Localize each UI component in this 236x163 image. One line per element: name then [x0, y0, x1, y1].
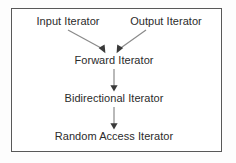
- node-random-access-iterator: Random Access Iterator: [55, 130, 174, 143]
- node-input-iterator: Input Iterator: [36, 15, 99, 28]
- diagram-canvas: Input Iterator Output Iterator Forward I…: [0, 0, 236, 163]
- node-bidirectional-iterator: Bidirectional Iterator: [65, 92, 164, 105]
- node-forward-iterator: Forward Iterator: [74, 54, 153, 67]
- node-output-iterator: Output Iterator: [130, 15, 202, 28]
